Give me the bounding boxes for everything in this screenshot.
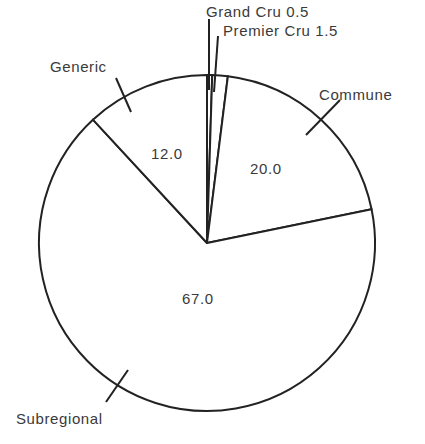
pie-chart: Grand Cru 0.5 Premier Cru 1.5 Commune Ge…	[0, 0, 425, 444]
pie-slices	[39, 75, 375, 411]
subregional-value: 67.0	[182, 290, 214, 307]
commune-value: 20.0	[250, 160, 282, 177]
commune-label: Commune	[319, 86, 392, 103]
subregional-label: Subregional	[16, 410, 103, 427]
generic-value: 12.0	[151, 145, 183, 162]
generic-label: Generic	[50, 58, 107, 75]
premier-cru-label: Premier Cru 1.5	[223, 22, 338, 39]
grand-cru-label: Grand Cru 0.5	[206, 3, 309, 20]
